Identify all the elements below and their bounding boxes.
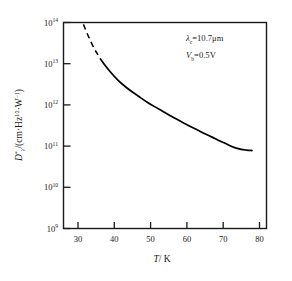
plot-frame [64,23,267,229]
svg-text:1012: 1012 [44,99,58,110]
y-axis-open: /(cm·Hz [14,117,25,149]
y-tick-mantissa-14: 10 [44,18,53,28]
x-tick-label-40: 40 [110,234,119,244]
x-tick-label-50: 50 [146,234,155,244]
y-tick-exponent-11: 11 [53,141,59,147]
svg-text:1010: 1010 [44,182,58,193]
y-tick-mantissa-12: 10 [44,100,53,110]
y-tick-labels: 1014 1013 1012 1011 1010 109 [44,17,58,234]
y-tick-exponent-13: 13 [52,58,58,64]
y-tick-mantissa-13: 10 [44,59,53,69]
svg-text:1011: 1011 [44,141,58,152]
annotation-0-unit: μm [212,33,224,43]
chart-canvas: 1014 1013 1012 1011 1010 109 30 40 50 60 [0,0,292,281]
figure-container: 1014 1013 1012 1011 1010 109 30 40 50 60 [0,0,292,281]
x-tick-label-60: 60 [183,234,192,244]
y-tick-mantissa-9: 10 [47,224,56,234]
x-tick-label-30: 30 [74,234,83,244]
svg-text:1013: 1013 [44,58,58,69]
annotation-0-equals: =10.7 [192,33,213,43]
y-tick-exponent-9: 9 [55,223,58,229]
x-axis-title: T/ K [153,254,170,264]
y-axis-symbol: D [14,154,24,162]
svg-text:109: 109 [47,223,59,234]
y-tick-exponent-14: 14 [52,17,58,23]
y-axis-sup: * [14,151,20,154]
x-tick-label-70: 70 [219,234,228,244]
annotation-1-equals: =0.5 [194,50,210,60]
annotation-1-unit: V [210,50,217,60]
svg-text:1014: 1014 [44,17,58,28]
x-tick-labels: 30 40 50 60 70 80 [74,234,264,244]
y-tick-mantissa-11: 10 [44,141,53,151]
y-tick-mantissa-10: 10 [44,182,53,192]
y-axis-mid: ·W [14,98,24,110]
y-axis-close: ) [14,89,25,92]
y-axis-title: D*λ/(cm·Hz1⁄2·W−1) [14,89,27,162]
x-tick-label-80: 80 [255,234,264,244]
y-tick-exponent-12: 12 [52,99,58,105]
y-tick-exponent-10: 10 [52,182,58,188]
svg-text:D*λ/(cm·Hz1⁄2·W−1): D*λ/(cm·Hz1⁄2·W−1) [14,89,27,162]
annotation-bias-voltage: Vb=0.5V [186,50,217,62]
